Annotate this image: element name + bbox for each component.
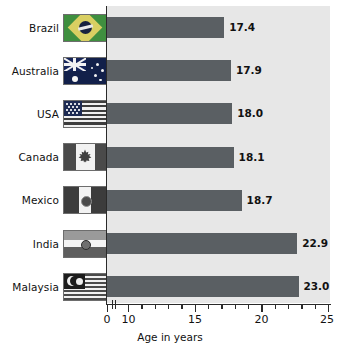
category-axis-line: [106, 304, 331, 305]
flag-canada-icon: [63, 143, 107, 171]
category-row-australia: Australia: [0, 49, 107, 92]
bar-malaysia[interactable]: [107, 276, 299, 297]
bar-india[interactable]: [107, 233, 297, 254]
bar-canada[interactable]: [107, 147, 234, 168]
bar-row: 23.0: [107, 265, 330, 308]
category-row-mexico: Mexico: [0, 179, 107, 222]
axis-break-mark: [112, 300, 113, 309]
flag-australia-icon: [63, 57, 107, 85]
bar-value-label: 17.9: [231, 60, 262, 81]
flag-malaysia-icon: [63, 273, 107, 301]
x-tick-label: 20: [255, 313, 269, 326]
category-label: India: [33, 238, 59, 250]
bar-usa[interactable]: [107, 103, 232, 124]
bar-value-label: 23.0: [299, 276, 330, 297]
x-tick-label: 15: [188, 313, 202, 326]
category-row-malaysia: Malaysia: [0, 265, 107, 308]
bar-value-label: 22.9: [297, 233, 328, 254]
bar-value-label: 18.7: [242, 190, 273, 211]
category-row-canada: Canada: [0, 136, 107, 179]
bar-brazil[interactable]: [107, 17, 224, 38]
value-axis-line: [106, 6, 107, 305]
flag-mexico-icon: [63, 186, 107, 214]
bar-value-label: 18.0: [232, 103, 263, 124]
category-label: Malaysia: [12, 281, 59, 293]
bar-row: 18.0: [107, 92, 330, 135]
maple-leaf-icon: [78, 149, 92, 165]
x-axis-title: Age in years: [0, 331, 340, 343]
category-label: Australia: [12, 65, 59, 77]
flag-india-icon: [63, 230, 107, 258]
category-row-india: India: [0, 222, 107, 265]
category-label: Canada: [18, 151, 59, 163]
category-axis: Brazil Australia USA: [0, 0, 107, 303]
flag-usa-icon: [63, 100, 107, 128]
category-row-usa: USA: [0, 92, 107, 135]
x-tick-label: 0: [104, 313, 111, 326]
bar-value-label: 18.1: [234, 147, 265, 168]
axis-break-mark: [115, 300, 116, 309]
bar-row: 17.4: [107, 6, 330, 49]
bar-row: 22.9: [107, 222, 330, 265]
x-tick-label: 10: [122, 313, 136, 326]
category-label: Brazil: [29, 22, 59, 34]
bar-value-label: 17.4: [224, 17, 255, 38]
bar-row: 17.9: [107, 49, 330, 92]
bar-chart: Brazil Australia USA: [0, 0, 340, 348]
bar-row: 18.7: [107, 179, 330, 222]
x-tick-label: 25: [320, 313, 334, 326]
bar-australia[interactable]: [107, 60, 231, 81]
bar-row: 18.1: [107, 136, 330, 179]
plot-area: 17.4 17.9 18.0 18.1 18.7 22.9 23.0: [107, 6, 330, 303]
category-row-brazil: Brazil: [0, 6, 107, 49]
bar-mexico[interactable]: [107, 190, 242, 211]
category-label: Mexico: [22, 194, 59, 206]
category-label: USA: [37, 108, 59, 120]
flag-brazil-icon: [63, 14, 107, 42]
